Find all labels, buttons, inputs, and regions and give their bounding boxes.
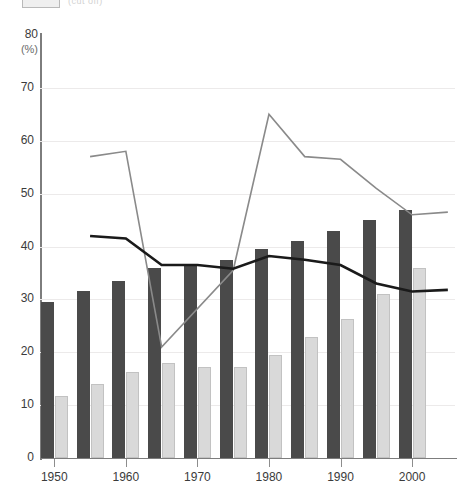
x-tick-1960: 1960 xyxy=(113,470,140,484)
x-tick-1990: 1990 xyxy=(327,470,354,484)
y-tick-50: 50 xyxy=(4,186,34,200)
x-tick-mark-2000 xyxy=(412,459,413,467)
y-tick-10: 10 xyxy=(4,397,34,411)
y-axis-max-label: 80 xyxy=(6,27,38,42)
black-line xyxy=(90,236,448,292)
x-tick-mark-1980 xyxy=(269,459,270,467)
x-axis-line xyxy=(40,458,457,459)
y-tick-70: 70 xyxy=(4,80,34,94)
x-tick-mark-1970 xyxy=(197,459,198,467)
y-tick-60: 60 xyxy=(4,133,34,147)
x-tick-1950: 1950 xyxy=(41,470,68,484)
x-tick-1980: 1980 xyxy=(256,470,283,484)
legend-label: (cut off) xyxy=(68,0,103,6)
x-tick-1970: 1970 xyxy=(184,470,211,484)
y-tick-20: 20 xyxy=(4,344,34,358)
y-tick-30: 30 xyxy=(4,291,34,305)
gray-line xyxy=(90,114,448,347)
x-tick-2000: 2000 xyxy=(399,470,426,484)
x-tick-mark-1950 xyxy=(54,459,55,467)
x-tick-mark-1960 xyxy=(126,459,127,467)
y-tick-40: 40 xyxy=(4,239,34,253)
x-tick-mark-1990 xyxy=(341,459,342,467)
y-axis-unit-label: (%) xyxy=(6,42,38,56)
legend-swatch-icon xyxy=(22,0,60,8)
lines-layer xyxy=(40,35,455,458)
y-tick-0: 0 xyxy=(4,450,34,464)
chart-root: (cut off) 80 (%) 706050403020100 1950196… xyxy=(0,0,461,495)
plot-area xyxy=(40,35,455,458)
legend: (cut off) xyxy=(0,0,260,8)
